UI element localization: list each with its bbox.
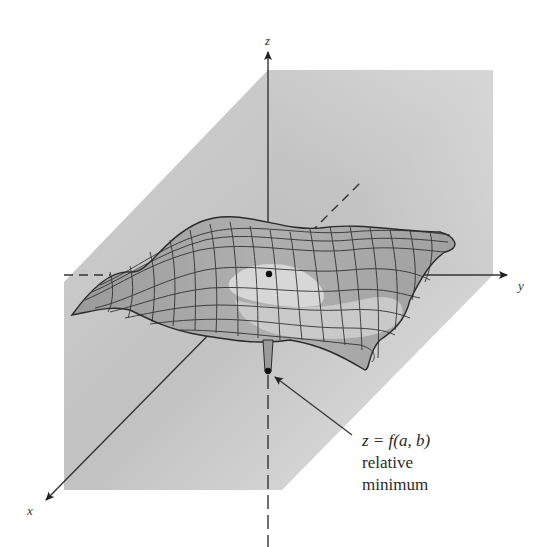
surface-figure [0,0,549,547]
x-axis-label: x [27,503,33,519]
annotation-line2: minimum [362,474,430,496]
surface-point [266,271,272,277]
minimum-point [265,368,271,374]
annotation-line1: relative [362,452,430,474]
relative-minimum-annotation: z = f(a, b) relative minimum [362,430,430,496]
y-axis-label: y [518,278,524,294]
z-axis-label: z [265,33,270,49]
annotation-equation: z = f(a, b) [362,430,430,452]
